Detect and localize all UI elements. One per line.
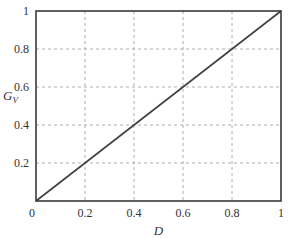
x-axis-label: D — [153, 223, 164, 238]
line-chart: 00.20.40.60.810.20.40.60.81DGV — [0, 0, 291, 238]
y-tick-label: 0.4 — [14, 118, 29, 132]
x-tick-label: 0.6 — [176, 206, 191, 220]
data-line — [36, 11, 281, 201]
y-tick-label: 0.6 — [14, 80, 29, 94]
x-tick-label: 0.2 — [78, 206, 93, 220]
x-tick-label: 0.4 — [127, 206, 142, 220]
x-tick-label: 0.8 — [225, 206, 240, 220]
y-tick-label: 0.8 — [14, 42, 29, 56]
x-tick-label: 1 — [278, 206, 284, 220]
x-tick-label: 0 — [29, 206, 35, 220]
y-tick-label: 0.2 — [14, 156, 29, 170]
y-tick-label: 1 — [23, 4, 29, 18]
